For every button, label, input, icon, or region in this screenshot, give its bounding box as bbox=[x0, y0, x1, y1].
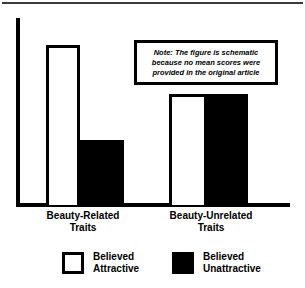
schematic-note-box: Note: The figure is schematic because no… bbox=[134, 40, 278, 85]
legend-label-believed-attractive-line2: Attractive bbox=[93, 263, 139, 275]
category-label-beauty-related: Beauty-Related Traits bbox=[28, 210, 138, 234]
legend-swatch-black-square bbox=[172, 252, 194, 274]
legend-swatch-white-square bbox=[62, 252, 84, 274]
category-label-beauty-unrelated-line2: Traits bbox=[152, 222, 270, 234]
legend-label-believed-unattractive-line1: Believed bbox=[203, 251, 244, 262]
category-label-beauty-related-line1: Beauty-Related bbox=[47, 210, 120, 221]
category-label-beauty-related-line2: Traits bbox=[28, 222, 138, 234]
bar-chart-figure: Note: The figure is schematic because no… bbox=[0, 0, 305, 288]
bar-beauty-related-believed-unattractive bbox=[80, 140, 124, 205]
bar-beauty-unrelated-believed-unattractive bbox=[207, 94, 248, 205]
bar-beauty-unrelated-believed-attractive bbox=[169, 94, 207, 205]
y-axis-line bbox=[16, 18, 20, 207]
category-label-beauty-unrelated: Beauty-Unrelated Traits bbox=[152, 210, 270, 234]
schematic-note-text: Note: The figure is schematic because no… bbox=[141, 48, 271, 78]
legend-item-believed-unattractive: Believed Unattractive bbox=[172, 251, 261, 275]
category-label-beauty-unrelated-line1: Beauty-Unrelated bbox=[170, 210, 253, 221]
legend-label-believed-attractive-line1: Believed bbox=[93, 251, 134, 262]
legend-item-believed-attractive: Believed Attractive bbox=[62, 251, 139, 275]
top-divider-rule bbox=[2, 2, 303, 4]
bar-beauty-related-believed-attractive bbox=[46, 45, 80, 205]
legend-label-believed-attractive: Believed Attractive bbox=[93, 251, 139, 275]
legend-label-believed-unattractive: Believed Unattractive bbox=[203, 251, 261, 275]
legend-label-believed-unattractive-line2: Unattractive bbox=[203, 263, 261, 275]
